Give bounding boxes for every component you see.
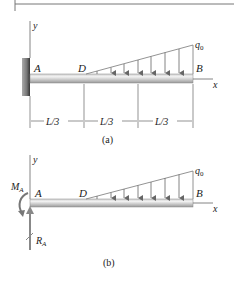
- distributed-load-b: [86, 171, 193, 199]
- fixed-wall-support: [22, 58, 30, 96]
- moment-arrow: [20, 193, 28, 213]
- y-axis-label: y: [32, 20, 38, 31]
- beam-b: [30, 199, 193, 207]
- caption-a: (a): [102, 134, 113, 146]
- top-border: [15, 0, 234, 11]
- moment-arrowhead: [18, 210, 25, 217]
- figure-a: y x A D B q0: [22, 20, 218, 146]
- point-b-label-b: B: [196, 187, 203, 199]
- reaction-label: RA: [35, 235, 47, 248]
- distributed-load: [86, 45, 193, 74]
- x-axis-label: x: [212, 79, 218, 90]
- point-a-label: A: [33, 62, 41, 74]
- dimension-label-1: L/3: [45, 116, 59, 127]
- x-axis-label-b: x: [212, 203, 218, 214]
- beam: [30, 74, 193, 83]
- dimension-label-2: L/3: [99, 116, 113, 127]
- y-axis-label-b: y: [32, 154, 38, 165]
- load-intensity-label-b: q0: [195, 165, 204, 178]
- figure-b: y x A D B q0 MA RA (b): [10, 154, 218, 269]
- point-b-label: B: [196, 62, 203, 74]
- point-d-label: D: [77, 62, 86, 74]
- load-intensity-label: q0: [195, 39, 204, 52]
- dimension-label-3: L/3: [154, 116, 168, 127]
- point-a-label-b: A: [34, 187, 42, 199]
- beam-diagram: y x A D B q0: [0, 0, 234, 282]
- point-d-label-b: D: [78, 187, 87, 199]
- moment-label: MA: [10, 181, 24, 194]
- caption-b: (b): [103, 257, 115, 269]
